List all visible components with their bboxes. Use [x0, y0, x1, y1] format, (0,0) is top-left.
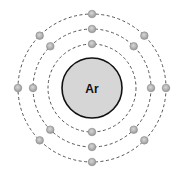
electron: [130, 42, 138, 50]
element-symbol: Ar: [85, 82, 99, 96]
electron: [141, 32, 149, 40]
electron: [88, 128, 96, 136]
electron: [141, 137, 149, 145]
electron: [88, 25, 96, 33]
electron: [29, 84, 37, 92]
electron: [147, 84, 155, 92]
electron: [162, 84, 170, 92]
argon-bohr-diagram: Ar: [0, 0, 181, 174]
electron: [36, 137, 44, 145]
nucleus: Ar: [62, 58, 122, 118]
electron: [130, 126, 138, 134]
electron: [88, 143, 96, 151]
electron: [88, 158, 96, 166]
electron: [88, 10, 96, 18]
electron: [46, 126, 54, 134]
electron: [36, 32, 44, 40]
electron: [46, 42, 54, 50]
electron: [14, 84, 22, 92]
electron: [88, 40, 96, 48]
